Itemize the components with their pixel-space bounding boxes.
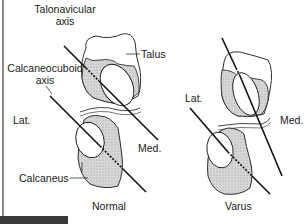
foot-bone-diagram [0,0,307,224]
medial-label-normal: Med. [138,143,161,154]
calcaneocuboid-axis-label-line2: axis [4,75,86,86]
medial-label-varus: Med. [280,115,303,126]
varus-caption: Varus [225,201,252,212]
varus-foot [190,38,282,194]
talonavicular-axis-label-line1: Talonavicular [30,4,100,15]
calcaneus-label: Calcaneus [19,173,69,184]
lateral-label-varus: Lat. [185,93,203,104]
talonavicular-axis-label-line2: axis [30,16,100,27]
talus-label: Talus [141,49,166,60]
normal-caption: Normal [92,201,126,212]
lateral-label-normal: Lat. [13,115,31,126]
calcaneocuboid-axis-label-line1: Calcaneocuboid [4,63,86,74]
